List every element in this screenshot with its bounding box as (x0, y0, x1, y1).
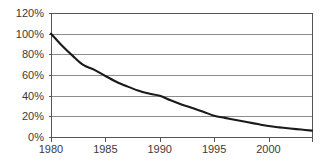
x-tick-label: 1990 (148, 143, 172, 155)
line-chart: 0%20%40%60%80%100%120% 19801985199019952… (0, 0, 326, 168)
x-tick-label: 1995 (202, 143, 226, 155)
chart-container: 0%20%40%60%80%100%120% 19801985199019952… (0, 0, 326, 168)
y-tick-label: 40% (22, 90, 44, 102)
y-tick-label: 20% (22, 110, 44, 122)
y-tick-label: 60% (22, 69, 44, 81)
x-tick-label: 1980 (39, 143, 63, 155)
x-tick-label: 1985 (93, 143, 117, 155)
y-tick-label: 80% (22, 48, 44, 60)
y-tick-label: 100% (16, 28, 44, 40)
y-tick-label: 120% (16, 7, 44, 19)
x-tick-label: 2000 (256, 143, 280, 155)
y-tick-label: 0% (28, 131, 44, 143)
